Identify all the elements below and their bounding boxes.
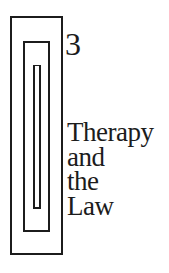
chapter-title: Therapy and the Law [67, 120, 153, 218]
chapter-title-line: the [67, 169, 153, 194]
chapter-title-line: Law [67, 194, 153, 219]
chapter-number: 3 [65, 28, 81, 60]
chapter-title-line: Therapy [67, 120, 153, 145]
inner-frame-rectangle [33, 65, 41, 209]
